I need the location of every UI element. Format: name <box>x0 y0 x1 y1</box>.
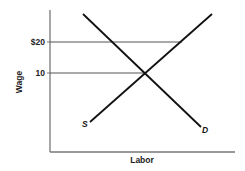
tick-label-20: $20 <box>31 37 45 47</box>
supply-label: S <box>82 119 88 129</box>
y-axis-label: Wage <box>14 71 24 94</box>
supply-curve <box>90 14 212 122</box>
wage-labor-chart: $20 10 Wage Labor S D <box>0 0 245 171</box>
demand-curve <box>83 14 201 127</box>
demand-label: D <box>202 125 208 135</box>
tick-label-10: 10 <box>36 68 46 78</box>
x-axis-label: Labor <box>130 155 154 165</box>
